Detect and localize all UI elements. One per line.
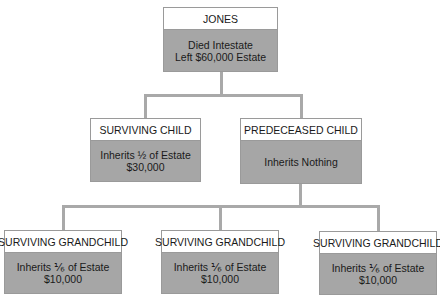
node-line1: Inherits ⅙ of Estate bbox=[17, 261, 110, 273]
node-line1: Inherits ⅙ of Estate bbox=[174, 261, 267, 273]
node-line2: $30,000 bbox=[127, 161, 165, 173]
node-body: Died Intestate Left $60,000 Estate bbox=[164, 30, 277, 71]
node-surviving-child: SURVIVING CHILD Inherits ½ of Estate $30… bbox=[90, 118, 201, 182]
connector-to-surviving-child bbox=[144, 94, 147, 119]
node-title: SURVIVING GRANDCHILD bbox=[5, 231, 121, 253]
node-jones: JONES Died Intestate Left $60,000 Estate bbox=[163, 7, 278, 72]
node-title: PREDECEASED CHILD bbox=[241, 119, 361, 141]
node-line1: Inherits Nothing bbox=[264, 156, 338, 168]
node-grandchild-1: SURVIVING GRANDCHILD Inherits ⅙ of Estat… bbox=[4, 230, 122, 294]
node-body: Inherits ⅙ of Estate $10,000 bbox=[162, 253, 278, 293]
node-title: SURVIVING GRANDCHILD bbox=[162, 231, 278, 253]
connector-to-grandchild-1 bbox=[62, 205, 65, 231]
node-title: JONES bbox=[164, 8, 277, 30]
node-grandchild-3: SURVIVING GRANDCHILD Inherits ⅙ of Estat… bbox=[319, 231, 437, 295]
node-body: Inherits ½ of Estate $30,000 bbox=[91, 141, 200, 181]
connector-to-grandchild-3 bbox=[377, 205, 380, 231]
node-title: SURVIVING GRANDCHILD bbox=[320, 232, 436, 254]
node-line1: Died Intestate bbox=[188, 39, 253, 51]
node-grandchild-2: SURVIVING GRANDCHILD Inherits ⅙ of Estat… bbox=[161, 230, 279, 294]
node-title: SURVIVING CHILD bbox=[91, 119, 200, 141]
connector-to-grandchild-2 bbox=[219, 205, 222, 231]
node-line2: $10,000 bbox=[44, 273, 82, 285]
node-line1: Inherits ⅙ of Estate bbox=[332, 262, 425, 274]
connector-predeceased-down bbox=[299, 183, 302, 207]
node-line1: Inherits ½ of Estate bbox=[100, 149, 190, 161]
connector-to-predeceased-child bbox=[300, 94, 303, 119]
node-predeceased-child: PREDECEASED CHILD Inherits Nothing bbox=[240, 118, 362, 184]
node-body: Inherits ⅙ of Estate $10,000 bbox=[5, 253, 121, 293]
node-line2: Left $60,000 Estate bbox=[175, 51, 266, 63]
connector-children-horizontal bbox=[144, 94, 303, 97]
node-body: Inherits ⅙ of Estate $10,000 bbox=[320, 254, 436, 294]
connector-root-down bbox=[220, 72, 223, 96]
node-line2: $10,000 bbox=[201, 273, 239, 285]
node-line2: $10,000 bbox=[359, 274, 397, 286]
node-body: Inherits Nothing bbox=[241, 141, 361, 183]
